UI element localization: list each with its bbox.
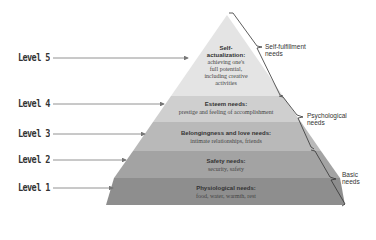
level-3-label: Level 3: [18, 127, 50, 140]
group-basic-line-1: Basic: [342, 171, 360, 178]
tier-2-desc: security, safety: [208, 166, 244, 173]
tier-5-desc-line-3: including creative: [204, 73, 247, 80]
group-self-fulfillment-label: Self-fulfillment needs: [265, 43, 306, 57]
level-1-label: Level 1: [18, 181, 50, 194]
group-basic-line-2: needs: [342, 178, 360, 185]
tier-5-title-line-1: Self-: [219, 45, 232, 52]
group-psychological-label: Psychological needs: [307, 112, 347, 126]
level-2-label: Level 2: [18, 153, 50, 166]
tier-1-title: Physiological needs:: [196, 185, 256, 192]
tier-2-title: Safety needs:: [206, 158, 245, 165]
group-self-fulfillment-line-2: needs: [265, 50, 306, 57]
level-4-label: Level 4: [18, 97, 50, 110]
tier-4-title: Esteem needs:: [205, 101, 247, 108]
tier-5-desc-line-2: full potential,: [210, 66, 242, 73]
group-basic-label: Basic needs: [342, 171, 360, 185]
tier-3-title: Belongingness and love needs:: [181, 130, 271, 137]
tier-4-desc: prestige and feeling of accomplishment: [179, 109, 274, 116]
tier-1-desc: food, water, warmth, rest: [196, 193, 256, 200]
group-psychological-line-2: needs: [307, 119, 347, 126]
tier-5-title-line-2: actualization:: [207, 52, 245, 59]
group-self-fulfillment-line-1: Self-fulfillment: [265, 43, 306, 50]
tier-5-desc-line-1: achieving one's: [208, 59, 245, 66]
tier-5-desc-line-4: activities: [215, 80, 237, 87]
level-5-label: Level 5: [18, 51, 50, 64]
group-psychological-line-1: Psychological: [307, 112, 347, 119]
tier-3-desc: intimate relationships, friends: [190, 138, 261, 145]
